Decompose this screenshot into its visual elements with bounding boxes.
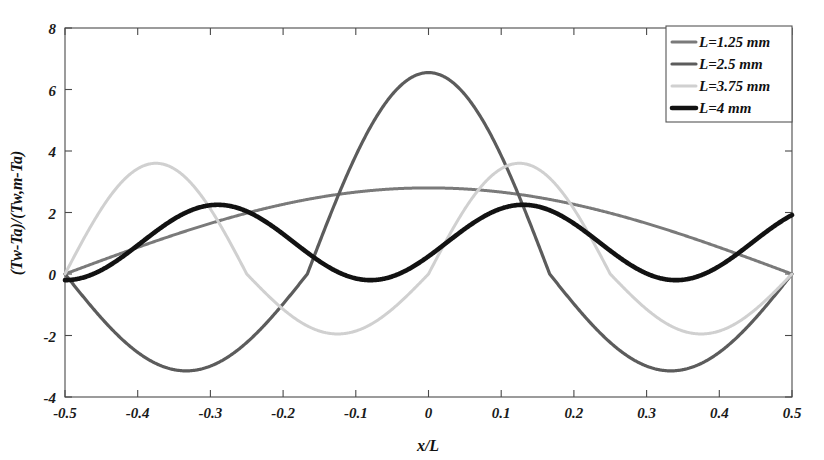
x-tick-label: -0.4 bbox=[126, 405, 150, 421]
series-line-0 bbox=[65, 188, 792, 274]
y-axis-title: (Tw-Ta)/(Tw,m-Ta) bbox=[8, 151, 26, 276]
x-tick-label: 0.1 bbox=[492, 405, 511, 421]
x-tick-label: -0.1 bbox=[344, 405, 368, 421]
y-tick-label: 0 bbox=[49, 267, 57, 283]
x-tick-label: 0.2 bbox=[565, 405, 584, 421]
x-tick-label: 0.3 bbox=[637, 405, 656, 421]
chart-canvas: -0.5-0.4-0.3-0.2-0.100.10.20.30.40.5 -4-… bbox=[0, 0, 824, 460]
legend-label-1: L=2.5 mm bbox=[698, 56, 763, 72]
legend-label-0: L=1.25 mm bbox=[698, 34, 770, 50]
x-tick-label: -0.3 bbox=[199, 405, 223, 421]
series-line-3 bbox=[65, 205, 792, 280]
y-tick-label: 6 bbox=[49, 83, 57, 99]
legend-label-3: L=4 mm bbox=[698, 100, 751, 116]
x-tick-label: 0.5 bbox=[783, 405, 802, 421]
y-tick-label: -2 bbox=[44, 329, 57, 345]
y-tick-label: 8 bbox=[49, 21, 57, 37]
legend: L=1.25 mmL=2.5 mmL=3.75 mmL=4 mm bbox=[666, 26, 792, 122]
x-axis-tick-labels: -0.5-0.4-0.3-0.2-0.100.10.20.30.40.5 bbox=[53, 405, 802, 421]
y-tick-label: 2 bbox=[48, 206, 57, 222]
y-axis-tick-labels: -4-202468 bbox=[44, 21, 57, 406]
legend-label-2: L=3.75 mm bbox=[698, 78, 770, 94]
x-axis-title: x/L bbox=[416, 437, 439, 454]
chart-figure: -0.5-0.4-0.3-0.2-0.100.10.20.30.40.5 -4-… bbox=[0, 0, 824, 460]
y-tick-label: 4 bbox=[48, 144, 57, 160]
x-tick-label: 0 bbox=[425, 405, 433, 421]
y-tick-label: -4 bbox=[44, 390, 57, 406]
x-tick-label: -0.5 bbox=[53, 405, 77, 421]
x-tick-label: -0.2 bbox=[271, 405, 295, 421]
x-tick-label: 0.4 bbox=[710, 405, 729, 421]
